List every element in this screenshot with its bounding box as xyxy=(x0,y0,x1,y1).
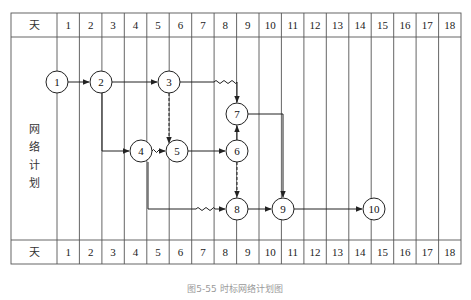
edge-7-9 xyxy=(248,114,283,197)
node-2: 2 xyxy=(90,71,112,93)
node-label: 5 xyxy=(174,145,180,157)
footer-day-17: 17 xyxy=(422,246,434,258)
header-day-10: 10 xyxy=(265,19,277,31)
header-row: 天 123456789101112131415161718 xyxy=(29,19,456,32)
footer-day-9: 9 xyxy=(245,246,251,258)
node-label: 9 xyxy=(280,203,286,215)
header-day-12: 12 xyxy=(310,19,321,31)
footer-day-16: 16 xyxy=(399,246,411,258)
header-day-3: 3 xyxy=(110,19,116,31)
edge-2-4 xyxy=(102,93,129,151)
header-day-17: 17 xyxy=(422,19,434,31)
footer-day-6: 6 xyxy=(178,246,184,258)
node-9: 9 xyxy=(272,198,294,220)
footer-day-12: 12 xyxy=(310,246,321,258)
free-float-wavy-4-8 xyxy=(196,208,215,211)
time-scaled-network-diagram: 天 123456789101112131415161718 天 12345678… xyxy=(0,0,471,300)
header-day-7: 7 xyxy=(200,19,206,31)
edge-3-7 xyxy=(180,81,237,103)
node-1: 1 xyxy=(46,71,68,93)
footer-day-14: 14 xyxy=(355,246,367,258)
side-label-network-plan: 网 络 计 划 xyxy=(29,123,40,190)
footer-day-18: 18 xyxy=(444,246,456,258)
header-row-label: 天 xyxy=(29,19,40,32)
footer-day-4: 4 xyxy=(133,246,139,258)
node-label: 4 xyxy=(138,145,144,157)
node-8: 8 xyxy=(226,198,248,220)
header-day-11: 11 xyxy=(287,19,298,31)
node-label: 6 xyxy=(234,145,240,157)
footer-day-7: 7 xyxy=(200,246,206,258)
header-day-15: 15 xyxy=(377,19,389,31)
node-10: 10 xyxy=(363,198,385,220)
header-day-6: 6 xyxy=(178,19,184,31)
header-day-4: 4 xyxy=(133,19,139,31)
header-day-5: 5 xyxy=(155,19,161,31)
footer-day-13: 13 xyxy=(332,246,344,258)
header-day-13: 13 xyxy=(332,19,344,31)
footer-day-8: 8 xyxy=(223,246,229,258)
node-6: 6 xyxy=(226,140,248,162)
header-day-8: 8 xyxy=(223,19,229,31)
footer-day-10: 10 xyxy=(265,246,277,258)
edge-4-8 xyxy=(148,162,225,211)
node-label: 2 xyxy=(98,76,104,88)
footer-day-3: 3 xyxy=(110,246,116,258)
node-5: 5 xyxy=(166,140,188,162)
header-day-14: 14 xyxy=(355,19,367,31)
side-label-char-3: 计 xyxy=(29,159,40,172)
footer-row-label: 天 xyxy=(29,246,40,259)
node-label: 3 xyxy=(166,76,172,88)
header-day-1: 1 xyxy=(65,19,71,31)
node-label: 7 xyxy=(234,108,240,120)
footer-day-2: 2 xyxy=(88,246,94,258)
node-label: 8 xyxy=(234,203,240,215)
side-label-char-4: 划 xyxy=(29,177,40,190)
column-lines xyxy=(57,13,439,264)
node-label: 10 xyxy=(369,203,381,215)
node-label: 1 xyxy=(54,76,60,88)
nodes: 12374568910 xyxy=(46,71,385,220)
footer-day-15: 15 xyxy=(377,246,389,258)
side-label-char-1: 网 xyxy=(29,123,40,136)
edges xyxy=(68,81,362,211)
header-day-16: 16 xyxy=(399,19,411,31)
header-day-18: 18 xyxy=(444,19,456,31)
figure-caption: 图5-55 时标网络计划图 xyxy=(187,283,282,294)
side-label-char-2: 络 xyxy=(29,140,40,154)
header-day-2: 2 xyxy=(88,19,94,31)
footer-day-1: 1 xyxy=(65,246,71,258)
header-day-9: 9 xyxy=(245,19,251,31)
node-7: 7 xyxy=(226,103,248,125)
node-4: 4 xyxy=(130,140,152,162)
free-float-wavy-3-7 xyxy=(214,81,237,84)
footer-day-11: 11 xyxy=(287,246,298,258)
table-grid xyxy=(11,13,461,264)
footer-row: 天 123456789101112131415161718 xyxy=(29,246,456,259)
footer-day-5: 5 xyxy=(155,246,161,258)
edge-4-5 xyxy=(152,150,165,153)
node-3: 3 xyxy=(158,71,180,93)
